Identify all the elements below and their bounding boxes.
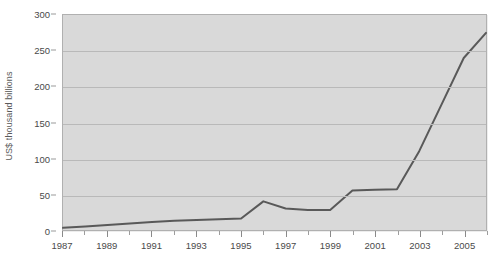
x-tick-mark xyxy=(151,231,152,237)
y-tick-mark xyxy=(51,50,56,51)
x-tick-mark xyxy=(219,231,220,235)
y-tick-label: 0 xyxy=(45,226,50,237)
y-tick-mark xyxy=(51,14,56,15)
y-axis-title: US$ thousand billions xyxy=(0,0,18,231)
x-tick-label: 1987 xyxy=(51,240,72,251)
x-tick-mark xyxy=(330,231,331,237)
x-tick-label: 1989 xyxy=(96,240,117,251)
y-tick-label: 50 xyxy=(39,189,50,200)
x-tick-mark xyxy=(241,231,242,237)
x-tick-label: 1991 xyxy=(141,240,162,251)
x-tick-mark xyxy=(465,231,466,237)
gridline xyxy=(63,87,486,88)
line-chart-figure: US$ thousand billions 050100150200250300… xyxy=(0,0,502,262)
x-tick-label: 2001 xyxy=(365,240,386,251)
y-axis-title-text: US$ thousand billions xyxy=(4,71,14,160)
x-tick-mark xyxy=(353,231,354,235)
y-tick-mark xyxy=(51,158,56,159)
y-tick-label: 150 xyxy=(34,117,50,128)
x-tick-label: 1997 xyxy=(275,240,296,251)
x-tick-mark xyxy=(263,231,264,235)
x-tick-mark xyxy=(129,231,130,235)
x-tick-mark xyxy=(107,231,108,237)
gridline xyxy=(63,196,486,197)
x-tick-mark xyxy=(442,231,443,235)
x-axis-tick-marks xyxy=(62,231,487,239)
y-tick-mark xyxy=(51,122,56,123)
plot-area xyxy=(62,14,487,231)
x-tick-mark xyxy=(84,231,85,235)
x-tick-mark xyxy=(420,231,421,237)
x-tick-label: 2003 xyxy=(409,240,430,251)
x-tick-mark xyxy=(62,231,63,237)
y-tick-mark xyxy=(51,231,56,232)
x-tick-label: 1993 xyxy=(186,240,207,251)
y-tick-label: 200 xyxy=(34,81,50,92)
gridline xyxy=(63,124,486,125)
gridline xyxy=(63,51,486,52)
y-tick-label: 250 xyxy=(34,45,50,56)
series-polyline xyxy=(63,33,486,228)
x-tick-label: 1999 xyxy=(320,240,341,251)
x-tick-mark xyxy=(398,231,399,235)
y-tick-label: 100 xyxy=(34,153,50,164)
y-tick-label: 300 xyxy=(34,9,50,20)
gridline xyxy=(63,160,486,161)
x-tick-label: 2005 xyxy=(454,240,475,251)
y-tick-mark xyxy=(51,194,56,195)
y-tick-mark xyxy=(51,86,56,87)
x-tick-mark xyxy=(375,231,376,237)
x-tick-mark xyxy=(174,231,175,235)
x-tick-mark xyxy=(487,231,488,235)
x-tick-mark xyxy=(308,231,309,235)
x-tick-mark xyxy=(286,231,287,237)
x-tick-label: 1995 xyxy=(230,240,251,251)
x-tick-mark xyxy=(196,231,197,237)
y-axis-tick-labels: 050100150200250300 xyxy=(18,0,56,236)
x-axis-tick-labels: 1987198919911993199519971999200120032005 xyxy=(62,240,487,260)
data-series-line xyxy=(63,15,486,230)
